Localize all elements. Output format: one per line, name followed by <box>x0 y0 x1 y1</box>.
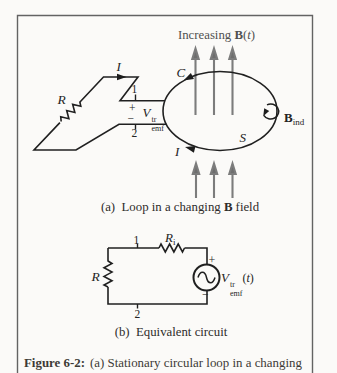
node-1-label: 1 <box>134 235 140 247</box>
resistor-label-b: R <box>92 270 100 284</box>
internal-resistance-label: Ri <box>165 231 175 247</box>
current-label-bottom: I <box>175 145 179 158</box>
caption-a: (a) Loop in a changing B field <box>101 201 259 214</box>
field-arrows-lower <box>193 164 236 199</box>
induced-field-curl-icon <box>261 104 279 119</box>
figure-caption-label: Figure 6-2: <box>24 356 85 370</box>
arrow-up-icon <box>229 49 235 60</box>
field-direction-label: Increasing B(t) <box>178 29 255 42</box>
caption-b: (b) Equivalent circuit <box>115 326 228 339</box>
current-arrowhead-icon <box>117 74 127 81</box>
arrow-up-icon <box>192 49 198 60</box>
figure-page: Increasing B(t) I C R 1 + Vtremf − 2 I S… <box>0 0 337 373</box>
figure-line-art <box>0 0 337 373</box>
figure-border-frame <box>18 16 313 373</box>
emf-label-a: Vtremf <box>143 106 164 133</box>
figure-caption: Figure 6-2:(a) Stationary circular loop … <box>24 357 302 370</box>
source-label-b: Vtremf(t) <box>221 271 254 298</box>
minus-sign-a: − <box>128 113 135 125</box>
current-label-top: I <box>117 60 121 73</box>
terminal-2-label: 2 <box>132 128 138 140</box>
node-2-label: 2 <box>135 309 141 321</box>
contour-label: C <box>177 66 186 79</box>
terminal-1-label: 1 <box>132 84 138 96</box>
arrow-up-icon <box>211 164 217 175</box>
field-arrows-upper <box>192 49 235 116</box>
plus-sign-b: + <box>209 254 216 266</box>
resistor-zigzag-b <box>104 261 112 287</box>
arrow-up-icon <box>211 49 217 60</box>
circuit-wires <box>104 244 207 309</box>
figure-caption-text: (a) Stationary circular loop in a changi… <box>90 356 302 370</box>
arrow-up-icon <box>229 164 235 175</box>
arrow-up-icon <box>193 164 199 175</box>
circular-loop <box>163 72 277 151</box>
resistor-label-a: R <box>58 93 66 107</box>
surface-label: S <box>240 131 247 144</box>
ac-source-icon <box>194 265 220 291</box>
induced-field-label: Bind <box>284 111 304 127</box>
minus-sign-b: − <box>202 289 209 301</box>
